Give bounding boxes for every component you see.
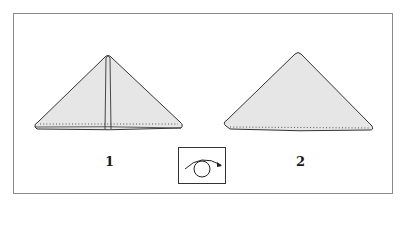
step-number-1: 1 [105,154,114,169]
turn-over-icon [179,148,227,185]
figure-2-triangle [224,53,372,131]
turn-over-icon-box [178,147,226,184]
step-number-2: 2 [296,154,305,169]
figure-1-triangle [35,56,182,130]
